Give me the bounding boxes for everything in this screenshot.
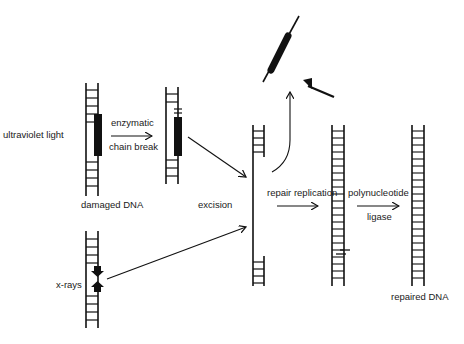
dna-repair-replicated — [332, 125, 350, 286]
label-x-rays: x-rays — [56, 279, 82, 290]
damage-block-icon — [94, 114, 102, 156]
dna-excision-gap — [253, 125, 264, 286]
label-damaged-dna: damaged DNA — [81, 199, 143, 210]
dna-repaired — [412, 125, 424, 286]
damage-block-icon — [174, 117, 182, 156]
dna-uv-damaged — [86, 83, 102, 196]
arrow-to-excision-top — [188, 137, 246, 177]
label-chain-break: chain break — [109, 141, 158, 152]
label-ligase: ligase — [367, 211, 392, 222]
dna-xray-damaged — [86, 231, 104, 328]
excised-fragment — [263, 16, 299, 82]
label-enzymatic: enzymatic — [111, 117, 154, 128]
arrow-fragment-release — [272, 92, 290, 172]
label-excision: excision — [198, 199, 232, 210]
label-repaired-dna: repaired DNA — [391, 291, 449, 302]
label-ultraviolet-light: ultraviolet light — [3, 129, 64, 140]
arrow-down-icon — [91, 266, 104, 277]
label-repair-replication: repair replication — [267, 187, 337, 198]
label-polynucleotide: polynucleotide — [348, 187, 409, 198]
nuclease-arrow-icon — [303, 78, 334, 97]
dna-chain-break — [166, 87, 182, 184]
dna-repair-diagram: ultraviolet light enzymatic chain break … — [0, 0, 464, 344]
arrow-to-excision-bottom — [107, 227, 246, 279]
arrow-up-icon — [91, 281, 104, 292]
